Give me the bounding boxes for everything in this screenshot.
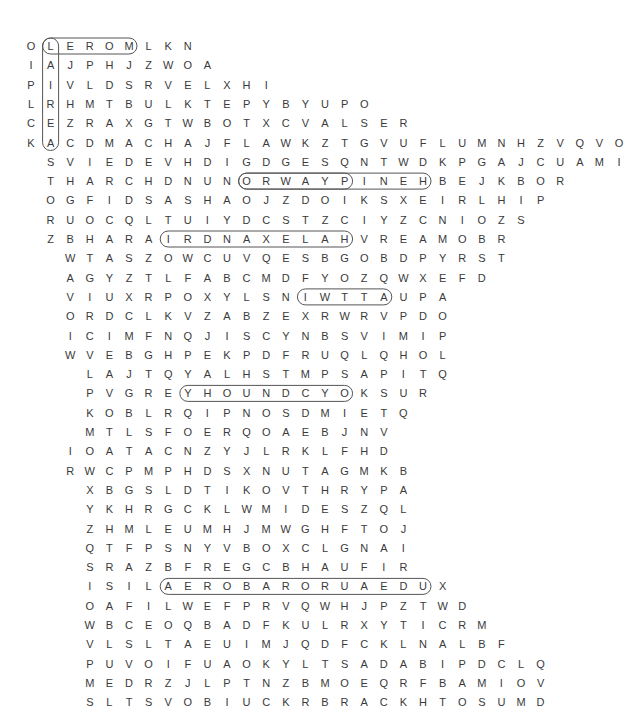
grid-letter[interactable]: A [100,597,118,615]
grid-letter[interactable]: G [61,191,79,209]
grid-letter[interactable]: V [375,307,393,325]
grid-letter[interactable]: T [316,655,334,673]
grid-letter[interactable]: A [100,230,118,248]
grid-letter[interactable]: H [159,134,177,152]
grid-letter[interactable]: C [22,114,40,132]
grid-letter[interactable]: V [277,481,295,499]
grid-letter[interactable]: C [257,211,275,229]
grid-letter[interactable]: O [81,442,99,460]
grid-letter[interactable]: Q [375,346,393,364]
grid-letter[interactable]: R [81,114,99,132]
grid-letter[interactable]: N [492,134,510,152]
grid-letter[interactable]: U [179,211,197,229]
grid-letter[interactable]: B [238,577,256,595]
grid-letter[interactable]: T [238,114,256,132]
grid-letter[interactable]: A [492,153,510,171]
grid-letter[interactable]: B [100,481,118,499]
grid-letter[interactable]: F [120,597,138,615]
grid-letter[interactable]: V [81,346,99,364]
grid-letter[interactable]: I [257,76,275,94]
grid-letter[interactable]: Z [61,114,79,132]
grid-letter[interactable]: C [100,211,118,229]
grid-letter[interactable]: D [120,153,138,171]
grid-letter[interactable]: A [355,577,373,595]
grid-letter[interactable]: V [375,423,393,441]
grid-letter[interactable]: R [42,211,60,229]
grid-letter[interactable]: G [355,134,373,152]
grid-letter[interactable]: Z [140,249,158,267]
grid-letter[interactable]: C [296,384,314,402]
grid-letter[interactable]: I [198,211,216,229]
grid-letter[interactable]: O [218,114,236,132]
grid-letter[interactable]: A [355,655,373,673]
grid-letter[interactable]: C [277,114,295,132]
grid-letter[interactable]: O [257,423,275,441]
grid-letter[interactable]: B [473,230,491,248]
grid-letter[interactable]: A [140,230,158,248]
grid-letter[interactable]: O [355,249,373,267]
grid-letter[interactable]: N [434,211,452,229]
grid-letter[interactable]: P [375,365,393,383]
grid-letter[interactable]: I [238,635,256,653]
grid-letter[interactable]: A [257,577,275,595]
grid-letter[interactable]: A [394,481,412,499]
grid-letter[interactable]: N [277,288,295,306]
grid-letter[interactable]: Z [277,191,295,209]
grid-letter[interactable]: D [394,577,412,595]
grid-letter[interactable]: A [61,269,79,287]
grid-letter[interactable]: W [179,597,197,615]
grid-letter[interactable]: T [414,365,432,383]
grid-letter[interactable]: F [492,635,510,653]
grid-letter[interactable]: B [238,307,256,325]
grid-letter[interactable]: B [434,674,452,692]
grid-letter[interactable]: Y [316,269,334,287]
grid-letter[interactable]: Y [316,172,334,190]
grid-letter[interactable]: D [394,249,412,267]
grid-letter[interactable]: X [198,288,216,306]
grid-letter[interactable]: I [336,404,354,422]
grid-letter[interactable]: I [140,597,158,615]
grid-letter[interactable]: A [100,365,118,383]
grid-letter[interactable]: V [355,230,373,248]
grid-letter[interactable]: I [355,211,373,229]
grid-letter[interactable]: B [316,327,334,345]
grid-letter[interactable]: A [218,307,236,325]
grid-letter[interactable]: H [61,95,79,113]
grid-letter[interactable]: S [296,249,314,267]
grid-letter[interactable]: A [218,655,236,673]
grid-letter[interactable]: F [179,558,197,576]
grid-letter[interactable]: P [81,655,99,673]
grid-letter[interactable]: C [257,327,275,345]
grid-letter[interactable]: U [218,635,236,653]
grid-letter[interactable]: Q [434,365,452,383]
grid-letter[interactable]: H [316,481,334,499]
grid-letter[interactable]: Y [375,211,393,229]
grid-letter[interactable]: L [100,693,118,711]
grid-letter[interactable]: D [296,500,314,518]
grid-letter[interactable]: K [394,693,412,711]
grid-letter[interactable]: Y [296,95,314,113]
grid-letter[interactable]: U [551,153,569,171]
grid-letter[interactable]: O [434,307,452,325]
grid-letter[interactable]: L [434,346,452,364]
grid-letter[interactable]: R [336,693,354,711]
grid-letter[interactable]: P [316,365,334,383]
grid-letter[interactable]: L [257,442,275,460]
grid-letter[interactable]: G [140,346,158,364]
grid-letter[interactable]: X [218,76,236,94]
grid-letter[interactable]: F [257,616,275,634]
grid-letter[interactable]: O [453,230,471,248]
grid-letter[interactable]: S [42,153,60,171]
grid-letter[interactable]: N [257,674,275,692]
grid-letter[interactable]: H [336,597,354,615]
grid-letter[interactable]: F [140,327,158,345]
grid-letter[interactable]: T [375,404,393,422]
grid-letter[interactable]: T [120,442,138,460]
grid-letter[interactable]: P [218,404,236,422]
grid-letter[interactable]: G [81,269,99,287]
grid-letter[interactable]: L [473,191,491,209]
grid-letter[interactable]: R [296,693,314,711]
grid-letter[interactable]: M [316,674,334,692]
grid-letter[interactable]: T [198,95,216,113]
grid-letter[interactable]: I [355,172,373,190]
